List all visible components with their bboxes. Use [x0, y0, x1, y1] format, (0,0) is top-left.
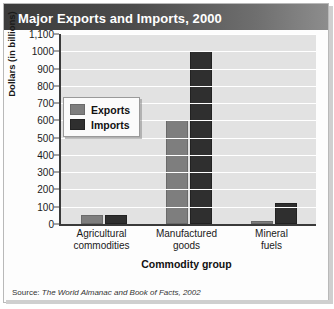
y-tick-mark: [54, 137, 59, 138]
legend-label-imports: Imports: [91, 119, 130, 131]
source-label: Source:: [12, 288, 40, 297]
y-tick-mark: [54, 224, 59, 225]
source-citation: The World Almanac and Book of Facts, 200…: [42, 288, 201, 297]
frame-shadow-right: [329, 6, 333, 304]
y-tick-label: 1,100: [29, 29, 54, 40]
y-tick-label: 800: [37, 80, 54, 91]
y-tick-label: 700: [37, 98, 54, 109]
gridline: [61, 138, 316, 139]
y-axis-tick-labels: 1,10010009008007006005004003002001000: [18, 34, 54, 224]
gridline: [61, 207, 316, 208]
chart-title: Major Exports and Imports, 2000: [18, 11, 222, 26]
y-tick-label: 900: [37, 63, 54, 74]
y-tick-mark: [54, 206, 59, 207]
x-category-label: Mineralfuels: [229, 228, 314, 252]
x-axis-category-labels: AgriculturalcommoditiesManufacturedgoods…: [59, 228, 314, 252]
y-tick-mark: [54, 68, 59, 69]
y-tick-label: 200: [37, 184, 54, 195]
legend-swatch-exports: [70, 104, 85, 115]
y-tick-label: 300: [37, 167, 54, 178]
gridline: [61, 189, 316, 190]
bar-imports: [105, 215, 127, 224]
frame-shadow-bottom: [6, 300, 331, 304]
y-tick-label: 100: [37, 201, 54, 212]
legend-swatch-imports: [70, 119, 85, 130]
gridline: [61, 172, 316, 173]
bar-exports: [81, 215, 103, 224]
title-bar: Major Exports and Imports, 2000: [4, 4, 328, 30]
y-tick-mark: [54, 34, 59, 35]
legend-item-imports: Imports: [70, 117, 130, 132]
y-tick-mark: [54, 189, 59, 190]
bar-exports: [251, 221, 273, 224]
figure-card: Major Exports and Imports, 2000 Dollars …: [0, 0, 334, 309]
x-axis-title: Commodity group: [59, 258, 314, 270]
legend-item-exports: Exports: [70, 102, 130, 117]
y-tick-label: 400: [37, 149, 54, 160]
y-tick-mark: [54, 172, 59, 173]
x-category-label: Manufacturedgoods: [144, 228, 229, 252]
gridline: [61, 34, 316, 35]
legend-label-exports: Exports: [91, 104, 130, 116]
y-tick-mark: [54, 103, 59, 104]
y-tick-label: 1000: [32, 46, 54, 57]
y-tick-mark: [54, 51, 59, 52]
source-note: Source: The World Almanac and Book of Fa…: [12, 288, 201, 297]
gridline: [61, 155, 316, 156]
y-tick-mark: [54, 85, 59, 86]
y-tick-mark: [54, 154, 59, 155]
y-tick-label: 600: [37, 115, 54, 126]
y-tick-label: 500: [37, 132, 54, 143]
bar-group: [231, 34, 316, 224]
gridline: [61, 86, 316, 87]
gridline: [61, 51, 316, 52]
y-tick-mark: [54, 120, 59, 121]
plot-wrapper: Dollars (in billions) 1,1001000900800700…: [8, 34, 318, 266]
chart-legend: Exports Imports: [63, 97, 140, 137]
x-category-label: Agriculturalcommodities: [59, 228, 144, 252]
gridline: [61, 69, 316, 70]
y-axis-title: Dollars (in billions): [6, 0, 17, 114]
bar-group: [146, 34, 231, 224]
